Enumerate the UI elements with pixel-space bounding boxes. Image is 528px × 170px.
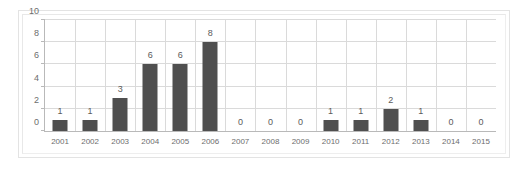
bar[interactable] [173,64,188,131]
bar-value-label: 0 [448,118,453,127]
x-axis-tick-label: 2007 [232,138,250,146]
bar-category: 02014 [436,20,466,131]
x-axis-tick-label: 2008 [262,138,280,146]
bar[interactable] [203,42,218,131]
bar-value-label: 1 [328,107,333,116]
x-axis-tick-label: 2003 [111,138,129,146]
bar-category: 02015 [466,20,496,131]
x-axis-tick-label: 2012 [382,138,400,146]
bar-category: 02007 [225,20,255,131]
bar-value-label: 3 [118,85,123,94]
bar-value-label: 1 [88,107,93,116]
bar-category: 02009 [286,20,316,131]
x-axis-tick-label: 2010 [322,138,340,146]
bar-value-label: 6 [178,51,183,60]
x-axis-tick-label: 2011 [352,138,369,146]
x-axis-tick-label: 2014 [442,138,460,146]
bar-category: 12010 [316,20,346,131]
bar-category: 22012 [376,20,406,131]
bar-category: 12001 [45,20,75,131]
bar-value-label: 0 [478,118,483,127]
y-axis-tick-label: 10 [29,7,39,16]
bar-value-label: 0 [298,118,303,127]
bar[interactable] [143,64,158,131]
y-axis-tick-label: 8 [34,29,39,38]
bar-category: 62004 [135,20,165,131]
bar-value-label: 0 [268,118,273,127]
bar-value-label: 1 [58,107,63,116]
x-axis-tick-label: 2009 [292,138,310,146]
bar[interactable] [113,98,128,131]
bar[interactable] [323,120,338,131]
plot-area: 0246810 12001120023200362004620058200602… [44,20,496,132]
bar-value-label: 8 [208,29,213,38]
bar-value-label: 2 [388,96,393,105]
bar-category: 62005 [165,20,195,131]
x-axis-tick-label: 2001 [51,138,69,146]
x-axis-tick-label: 2015 [472,138,490,146]
bar-value-label: 0 [238,118,243,127]
bar-category: 82006 [195,20,225,131]
bar[interactable] [383,109,398,131]
x-axis-tick-label: 2002 [81,138,99,146]
x-axis-tick-label: 2013 [412,138,430,146]
x-axis-tick-label: 2004 [141,138,159,146]
x-axis-tick-label: 2005 [171,138,189,146]
bar-value-label: 1 [358,107,363,116]
y-axis-tick-label: 2 [34,95,39,104]
bar[interactable] [353,120,368,131]
bar[interactable] [53,120,68,131]
y-axis-tick-label: 4 [34,73,39,82]
y-axis-tick-label: 6 [34,51,39,60]
bar[interactable] [413,120,428,131]
bar-category: 12011 [346,20,376,131]
bar-category: 12002 [75,20,105,131]
bar-category: 32003 [105,20,135,131]
bar-value-label: 1 [418,107,423,116]
y-axis-tick-label: 0 [34,118,39,127]
bar[interactable] [83,120,98,131]
x-axis-tick-label: 2006 [201,138,219,146]
bar-category: 02008 [255,20,285,131]
bar-value-label: 6 [148,51,153,60]
bar-category: 12013 [406,20,436,131]
